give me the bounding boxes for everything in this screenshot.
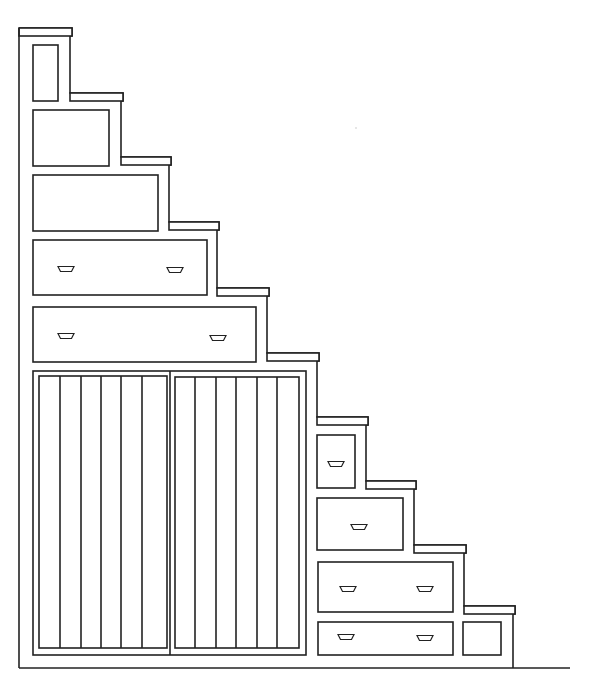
drawer-pull-icon xyxy=(417,636,433,641)
panel-outline xyxy=(463,622,501,655)
stair-tread xyxy=(366,481,416,489)
drawer-pull-icon xyxy=(338,635,354,640)
stair-tread xyxy=(217,288,269,296)
staircase-chest-drawing xyxy=(0,0,589,692)
drawer-4 xyxy=(33,240,207,295)
stair-tread xyxy=(317,417,368,425)
panel-outline xyxy=(33,110,109,166)
right-drawer-2 xyxy=(317,498,403,550)
drawer-pull-icon xyxy=(351,525,367,530)
left-sliding-door xyxy=(39,376,167,648)
stair-tread xyxy=(414,545,466,553)
paper-speck xyxy=(355,127,356,128)
drawer-pull-icon xyxy=(58,267,74,272)
drawer-pull-icon xyxy=(340,587,356,592)
panel-outline xyxy=(33,45,58,101)
drawing-canvas xyxy=(0,0,589,692)
drawer-2 xyxy=(33,110,109,166)
drawer-pull-icon xyxy=(417,587,433,592)
sliding-door-cabinet xyxy=(33,371,306,655)
door-panel xyxy=(39,376,167,648)
stair-tread xyxy=(169,222,219,230)
top-cabinet-door xyxy=(33,45,58,101)
panel-outline xyxy=(33,175,158,231)
stair-tread xyxy=(19,28,72,36)
door-panel xyxy=(175,377,299,648)
drawer-pull-icon xyxy=(58,334,74,339)
drawer-pull-icon xyxy=(328,462,344,467)
small-end-door xyxy=(463,622,501,655)
right-drawer-1 xyxy=(317,435,355,488)
stair-tread xyxy=(267,353,319,361)
drawer-5 xyxy=(33,307,256,362)
drawer-pull-icon xyxy=(210,336,226,341)
stair-tread xyxy=(464,606,515,614)
right-drawer-3 xyxy=(318,562,453,612)
right-drawer-4 xyxy=(318,622,453,655)
panel-outline xyxy=(318,622,453,655)
right-sliding-door xyxy=(175,377,299,648)
drawer-pull-icon xyxy=(167,268,183,273)
stair-tread xyxy=(70,93,123,101)
drawer-3 xyxy=(33,175,158,231)
stair-tread xyxy=(121,157,171,165)
